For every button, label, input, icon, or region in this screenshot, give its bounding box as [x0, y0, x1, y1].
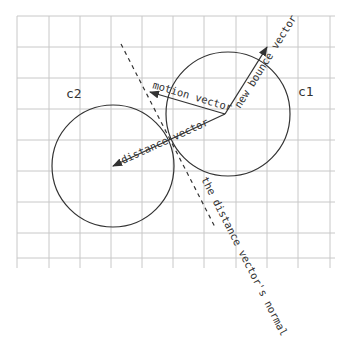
- normal-label: the distance vector's normal: [199, 174, 290, 337]
- bounce-vector-label: new bounce vector: [232, 13, 299, 110]
- circle-label-c1: c1: [298, 84, 314, 99]
- vector-labels: motion vector distance vector new bounce…: [119, 13, 299, 338]
- circle-c1: [166, 52, 290, 176]
- collision-diagram: c1 c2 motion vector distance vector new …: [0, 0, 359, 342]
- circle-label-c2: c2: [66, 86, 82, 101]
- distance-vector-label: distance vector: [119, 116, 210, 166]
